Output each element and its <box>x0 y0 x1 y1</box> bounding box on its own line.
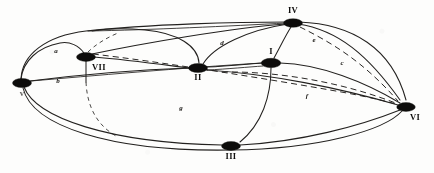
edge-label-d: d <box>220 39 224 47</box>
node-ii[interactable]: II <box>189 64 208 83</box>
edge-label-a: a <box>54 47 58 55</box>
edge-v-vii <box>21 43 84 79</box>
node-iv-dot[interactable] <box>284 19 303 28</box>
node-i-label: I <box>269 46 273 56</box>
edge-v-iii <box>24 87 222 145</box>
node-i-dot[interactable] <box>261 58 281 67</box>
edge-ii-vi <box>207 70 398 105</box>
node-ii-label: II <box>194 72 202 82</box>
node-layer: v VII II I IV VI <box>13 5 421 161</box>
node-iv[interactable]: IV <box>284 5 303 27</box>
node-i[interactable]: I <box>261 46 281 68</box>
node-iii[interactable]: III <box>222 142 241 161</box>
edge-label-g: g <box>178 104 183 112</box>
node-iv-label: IV <box>288 5 299 15</box>
edge-label-e: e <box>312 36 315 44</box>
edge-v-vi-outer <box>23 88 402 150</box>
node-vii-label: VII <box>92 62 106 72</box>
edge-i-iv <box>274 27 291 58</box>
edge-vii-ii <box>94 57 189 68</box>
node-iii-dot[interactable] <box>222 142 241 151</box>
edge-label-b: b <box>56 77 60 85</box>
edge-label-f: f <box>306 92 309 100</box>
edge-i-vi <box>280 63 400 103</box>
node-vii[interactable]: VII <box>77 53 107 72</box>
graph-figure: v VII II I IV VI <box>0 0 434 173</box>
node-v-dot[interactable] <box>13 78 32 87</box>
node-iii-label: III <box>225 151 236 161</box>
node-v-label: v <box>20 88 25 98</box>
node-vii-dot[interactable] <box>77 53 96 62</box>
edge-label-c: c <box>340 59 343 67</box>
node-vi-label: VI <box>410 112 421 122</box>
edge-layer <box>21 22 406 150</box>
edge-iv-vi-outer <box>299 22 406 100</box>
graph-canvas: v VII II I IV VI <box>0 0 434 173</box>
edge-ii-iv <box>203 24 288 64</box>
node-vi-dot[interactable] <box>397 103 416 112</box>
